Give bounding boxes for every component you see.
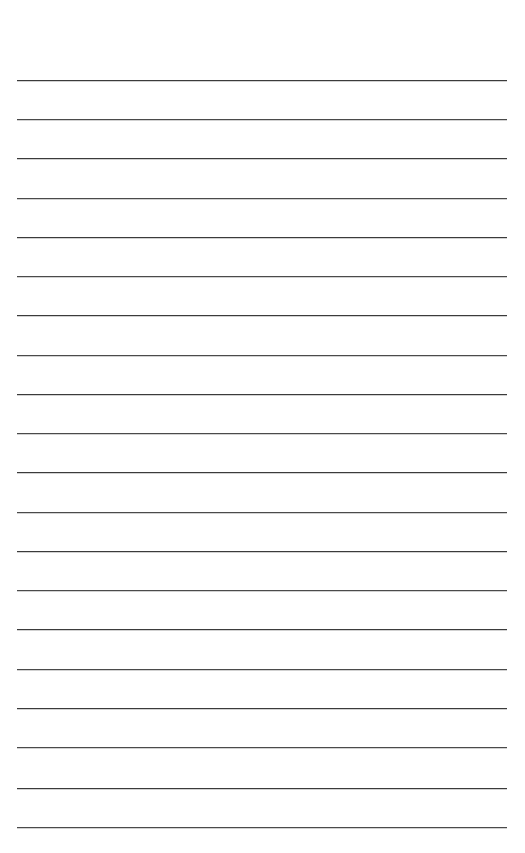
rule-line bbox=[17, 198, 507, 199]
line-text[interactable] bbox=[0, 45, 525, 80]
line-text[interactable] bbox=[0, 123, 525, 158]
line-text[interactable] bbox=[0, 280, 525, 315]
rule-line bbox=[17, 629, 507, 630]
line-text[interactable] bbox=[0, 792, 525, 827]
rule-line bbox=[17, 590, 507, 591]
line-text[interactable] bbox=[0, 398, 525, 433]
rule-line bbox=[17, 551, 507, 552]
rule-line bbox=[17, 119, 507, 120]
line-text[interactable] bbox=[0, 753, 525, 788]
rule-line bbox=[17, 827, 507, 828]
line-text[interactable] bbox=[0, 202, 525, 237]
rule-line bbox=[17, 355, 507, 356]
line-text[interactable] bbox=[0, 437, 525, 472]
line-text[interactable] bbox=[0, 477, 525, 512]
rule-line bbox=[17, 315, 507, 316]
rule-line bbox=[17, 158, 507, 159]
line-text[interactable] bbox=[0, 673, 525, 708]
line-text[interactable] bbox=[0, 359, 525, 394]
line-text[interactable] bbox=[0, 241, 525, 276]
rule-line bbox=[17, 788, 507, 789]
rule-line bbox=[17, 708, 507, 709]
rule-line bbox=[17, 276, 507, 277]
line-text[interactable] bbox=[0, 712, 525, 747]
line-text[interactable] bbox=[0, 320, 525, 355]
rule-line bbox=[17, 237, 507, 238]
line-text[interactable] bbox=[0, 163, 525, 198]
line-text[interactable] bbox=[0, 555, 525, 590]
rule-line bbox=[17, 472, 507, 473]
rule-line bbox=[17, 512, 507, 513]
rule-line bbox=[17, 394, 507, 395]
rule-line bbox=[17, 433, 507, 434]
line-text[interactable] bbox=[0, 594, 525, 629]
rule-line bbox=[17, 80, 507, 81]
rule-line bbox=[17, 747, 507, 748]
paper-page bbox=[0, 0, 525, 853]
line-text[interactable] bbox=[0, 634, 525, 669]
rule-line bbox=[17, 669, 507, 670]
line-text[interactable] bbox=[0, 516, 525, 551]
line-text[interactable] bbox=[0, 84, 525, 119]
